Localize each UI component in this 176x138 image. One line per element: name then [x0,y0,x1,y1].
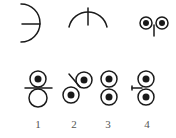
symbol-4-icon [132,71,154,105]
arc-left-horizontal-tick-icon [21,4,40,42]
two-eyes-stem-icon [140,17,168,36]
symbol-3-icon [101,71,117,105]
label-1: 1 [30,117,46,131]
label-3: 3 [100,117,116,131]
symbol-1-icon [25,71,52,107]
label-2: 2 [66,117,82,131]
arc-top-vertical-tick-icon [69,8,107,27]
label-4: 4 [139,117,155,131]
symbol-2-icon [63,72,92,103]
